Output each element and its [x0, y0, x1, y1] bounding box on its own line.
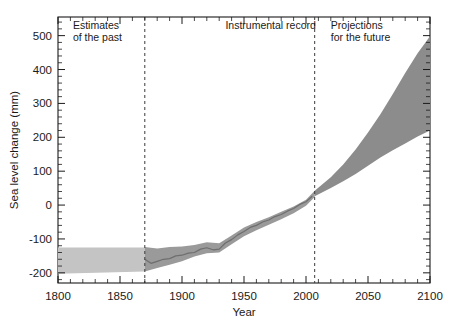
annotation-line: Instrumental record	[225, 19, 316, 31]
y-tick-label: 500	[33, 30, 52, 42]
series-band-estimates-of-the-past	[58, 247, 145, 273]
y-tick-label: 300	[33, 97, 52, 109]
x-tick-label: 1900	[169, 290, 195, 302]
annotation-line: Estimates	[73, 19, 119, 31]
x-tick-label: 2000	[293, 290, 319, 302]
x-tick-label: 2050	[355, 290, 381, 302]
annotation-line: for the future	[331, 31, 391, 43]
annotation-line: Projections	[331, 19, 383, 31]
y-tick-label: 100	[33, 165, 52, 177]
annotation-line: of the past	[73, 31, 122, 43]
x-axis-title: Year	[232, 306, 255, 318]
x-tick-label: 1950	[231, 290, 257, 302]
x-tick-label: 2100	[417, 290, 443, 302]
annotation-instrumental-record: Instrumental record	[225, 19, 316, 31]
y-tick-label: -200	[29, 267, 52, 279]
y-tick-label: 200	[33, 131, 52, 143]
y-axis-title: Sea level change (mm)	[8, 91, 20, 209]
y-tick-label: 0	[46, 199, 52, 211]
annotation-projections-for-the-future: Projectionsfor the future	[331, 19, 391, 43]
y-tick-label: 400	[33, 64, 52, 76]
x-tick-label: 1800	[45, 290, 71, 302]
chart-canvas: 5004003002001000-100-2001800185019001950…	[0, 0, 449, 327]
x-tick-label: 1850	[107, 290, 133, 302]
chart-background	[0, 0, 449, 327]
annotation-estimates-of-the-past: Estimatesof the past	[73, 19, 122, 43]
sea-level-change-chart-figure: 5004003002001000-100-2001800185019001950…	[0, 0, 449, 327]
y-tick-label: -100	[29, 233, 52, 245]
